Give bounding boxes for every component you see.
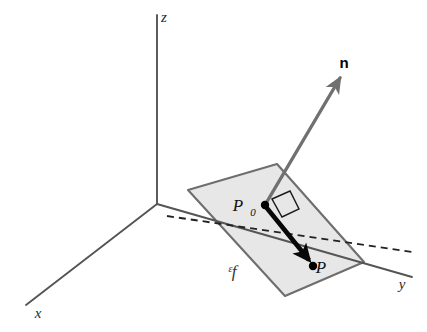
geometry-figure: z x y P 0 P n ᵋf xyxy=(0,0,427,332)
axis-label-z: z xyxy=(160,9,167,25)
plane-label: ᵋf xyxy=(228,262,239,281)
plane-normal-vector-diagram: z x y P 0 P n ᵋf xyxy=(0,0,427,332)
axis-x xyxy=(26,204,157,305)
point-label-p0-subscript: 0 xyxy=(250,206,256,218)
point-label-p0: P xyxy=(232,196,243,215)
point-p0-dot xyxy=(261,201,269,209)
normal-vector-arrow xyxy=(265,78,340,205)
axis-label-y: y xyxy=(397,276,406,292)
point-label-p: P xyxy=(315,258,326,277)
normal-vector-label: n xyxy=(339,54,348,71)
axis-label-x: x xyxy=(34,305,42,321)
